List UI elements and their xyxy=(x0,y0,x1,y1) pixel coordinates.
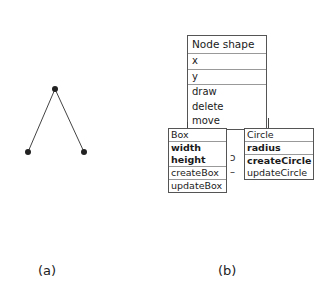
method: move xyxy=(188,114,266,129)
attribute: y xyxy=(188,70,266,86)
separator-dash: – xyxy=(230,166,235,177)
inheritance-connector-circle xyxy=(268,118,269,128)
method: updateCircle xyxy=(245,167,313,179)
tree-node-left xyxy=(25,149,31,155)
method: delete xyxy=(188,100,266,115)
caption-b: (b) xyxy=(218,263,236,278)
class-title: Circle xyxy=(245,129,313,142)
tree-node-right xyxy=(81,149,87,155)
method: createBox xyxy=(169,167,226,180)
tree-edge-right xyxy=(55,89,84,152)
separator-glyph: ɔ xyxy=(230,152,236,163)
attribute: width xyxy=(169,142,226,154)
attribute: x xyxy=(188,54,266,70)
attribute: height xyxy=(169,154,226,167)
method: updateBox xyxy=(169,180,226,192)
caption-a: (a) xyxy=(38,263,56,278)
class-box: Box width height createBox updateBox xyxy=(168,128,227,193)
tree-node-root xyxy=(52,86,58,92)
class-circle: Circle radius createCircle updateCircle xyxy=(244,128,314,180)
class-title: Node shape xyxy=(188,36,266,54)
method: draw xyxy=(188,85,266,100)
class-title: Box xyxy=(169,129,226,142)
class-node-shape: Node shape x y draw delete move xyxy=(187,35,267,130)
attribute: radius xyxy=(245,142,313,155)
method: createCircle xyxy=(245,155,313,167)
tree-edge-left xyxy=(28,89,55,152)
